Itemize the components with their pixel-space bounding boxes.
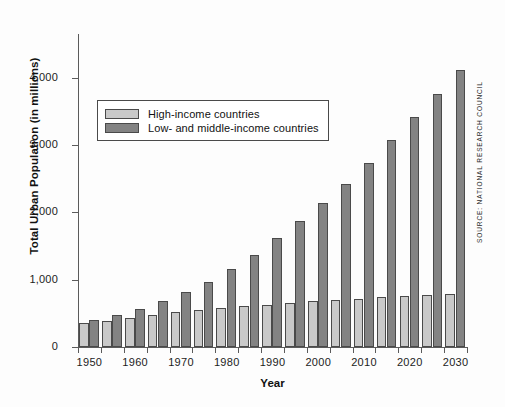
legend-item: Low- and middle-income countries: [105, 121, 319, 134]
bar-group: [102, 40, 122, 347]
bar-low-middle-income-1985: [250, 255, 260, 347]
legend-item: High-income countries: [105, 107, 319, 120]
bar-group: [354, 40, 374, 347]
bar-group: [79, 40, 99, 347]
x-axis-tick: [375, 347, 376, 353]
bar-low-middle-income-1960: [135, 309, 145, 347]
x-axis-tick: [192, 347, 193, 353]
bar-low-middle-income-1950: [89, 320, 99, 347]
bar-high-income-2000: [308, 301, 318, 347]
legend-label-high-income: High-income countries: [148, 108, 260, 120]
bar-high-income-1955: [102, 321, 112, 347]
bar-low-middle-income-1995: [295, 221, 305, 347]
bar-high-income-1975: [194, 310, 204, 347]
x-axis-tick-label: 2010: [351, 356, 377, 368]
x-axis-tick: [261, 347, 262, 353]
x-axis-title: Year: [78, 377, 467, 389]
bar-group: [422, 40, 442, 347]
y-axis-title: Total Urban Population (in millions): [28, 36, 40, 276]
bar-high-income-1960: [125, 318, 135, 347]
bar-low-middle-income-1975: [204, 282, 214, 347]
x-axis-tick-label: 2000: [305, 356, 331, 368]
bar-low-middle-income-1970: [181, 292, 191, 347]
legend-label-low-middle-income: Low- and middle-income countries: [148, 122, 319, 134]
bar-high-income-1985: [239, 306, 249, 347]
bar-low-middle-income-1955: [112, 315, 122, 347]
bar-group: [216, 40, 236, 347]
y-axis-tick-label: 0: [52, 340, 58, 352]
x-axis-tick: [398, 347, 399, 353]
bar-high-income-2015: [377, 297, 387, 347]
bar-low-middle-income-1965: [158, 301, 168, 347]
bar-group: [308, 40, 328, 347]
x-axis-tick-label: 1960: [122, 356, 148, 368]
bar-group: [445, 40, 465, 347]
bar-high-income-2010: [354, 299, 364, 347]
bar-high-income-1970: [171, 312, 181, 347]
bar-group: [377, 40, 397, 347]
bar-group: [285, 40, 305, 347]
x-axis-tick: [170, 347, 171, 353]
bar-low-middle-income-2030: [456, 70, 466, 348]
x-axis-tick: [124, 347, 125, 353]
bar-low-middle-income-2000: [318, 203, 328, 347]
x-axis-tick-label: 1950: [77, 356, 103, 368]
x-axis-tick-label: 1970: [168, 356, 194, 368]
chart-figure: 01,0002,0003,0004,000 195019601970198019…: [0, 0, 505, 407]
x-axis-tick-label: 2030: [443, 356, 469, 368]
x-axis-tick: [78, 347, 79, 353]
x-axis-tick: [467, 347, 468, 353]
bar-low-middle-income-2015: [387, 140, 397, 347]
bar-high-income-1965: [148, 315, 158, 347]
x-axis-tick: [284, 347, 285, 353]
x-axis-tick: [353, 347, 354, 353]
bar-group: [194, 40, 214, 347]
bar-high-income-2025: [422, 295, 432, 347]
bar-high-income-1995: [285, 303, 295, 347]
bar-group: [171, 40, 191, 347]
bar-low-middle-income-2005: [341, 184, 351, 347]
bar-low-middle-income-2020: [410, 117, 420, 347]
bar-low-middle-income-2010: [364, 163, 374, 347]
bar-low-middle-income-1990: [272, 238, 282, 347]
plot-area: [78, 40, 466, 347]
bar-high-income-1990: [262, 305, 272, 347]
bar-high-income-2020: [400, 296, 410, 347]
bar-group: [125, 40, 145, 347]
x-axis-tick: [238, 347, 239, 353]
x-axis-tick: [444, 347, 445, 353]
bar-group: [148, 40, 168, 347]
bar-group: [239, 40, 259, 347]
x-axis-tick-label: 1980: [214, 356, 240, 368]
bar-low-middle-income-2025: [433, 94, 443, 347]
bar-group: [400, 40, 420, 347]
x-axis-tick: [307, 347, 308, 353]
x-axis-tick-label: 1990: [260, 356, 286, 368]
source-credit: SOURCE: NATIONAL RESEARCH COUNCIL: [476, 93, 483, 243]
x-axis-tick: [215, 347, 216, 353]
x-axis-tick: [147, 347, 148, 353]
x-axis-line: [78, 347, 467, 348]
x-axis-tick: [421, 347, 422, 353]
x-axis-tick: [101, 347, 102, 353]
bar-high-income-2005: [331, 300, 341, 347]
legend-swatch-high-income: [105, 109, 139, 119]
bar-low-middle-income-1980: [227, 269, 237, 347]
x-axis-tick-label: 2020: [397, 356, 423, 368]
bar-high-income-2030: [445, 294, 455, 347]
bar-group: [262, 40, 282, 347]
bar-group: [331, 40, 351, 347]
bar-high-income-1950: [79, 323, 89, 347]
x-axis-tick: [330, 347, 331, 353]
bar-high-income-1980: [216, 308, 226, 347]
legend-swatch-low-middle-income: [105, 123, 139, 133]
chart-legend: High-income countries Low- and middle-in…: [97, 100, 329, 141]
